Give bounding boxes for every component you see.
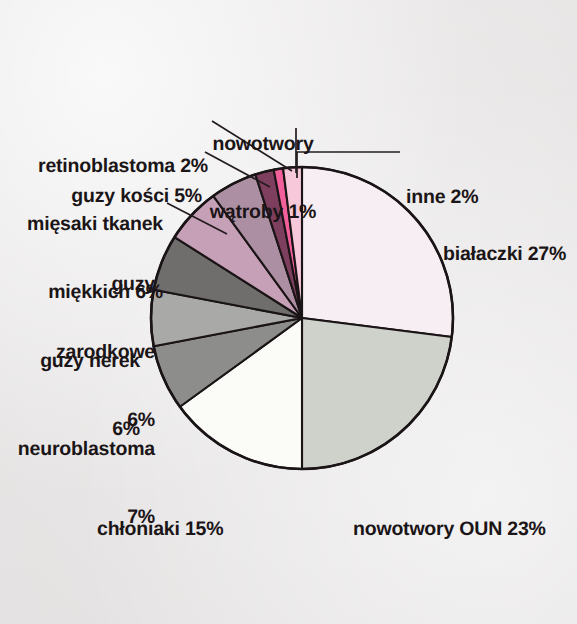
label-nowotwory-watroby-line2: wątroby 1% [188,201,338,224]
label-nowotwory-oun-line1: nowotwory OUN 23% [353,518,577,541]
pie-chart: nowotwory wątroby 1% inne 2% retinoblast… [0,0,577,624]
label-chloniaki: chłoniaki 15% [97,473,317,586]
label-nowotwory-watroby: nowotwory wątroby 1% [188,88,338,269]
label-guzy-nerek-line1: guzy nerek [0,350,140,373]
label-bialaczki-line1: białaczki 27% [443,243,577,266]
label-chloniaki-line1: chłoniaki 15% [97,518,317,541]
label-guzy-zarodkowe-line1: guzy [0,273,155,296]
pie-slice-nowotwory-oun [302,318,452,469]
label-bialaczki: białaczki 27% [443,198,577,311]
label-nowotwory-oun: nowotwory OUN 23% [353,473,577,586]
label-neuroblastoma-line1: neuroblastoma [0,438,155,461]
label-nowotwory-watroby-line1: nowotwory [188,133,338,156]
